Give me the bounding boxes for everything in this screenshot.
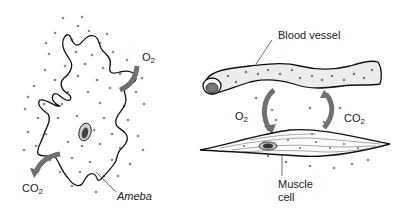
co2-base: CO (344, 112, 361, 124)
blood-vessel-leader-line (256, 40, 272, 64)
muscle-panel (200, 40, 390, 176)
co2-subscript: 2 (361, 117, 365, 126)
o2-base: O (235, 110, 244, 122)
co2-base: CO (22, 182, 39, 194)
muscle-label-line2: cell (278, 191, 295, 203)
ameba-nucleus (77, 122, 93, 142)
ameba-panel (23, 16, 146, 194)
o2-subscript: 2 (244, 115, 248, 124)
o2-subscript: 2 (151, 56, 155, 65)
co2-label-ameba: CO2 (22, 182, 43, 194)
co2-subscript: 2 (39, 187, 43, 196)
blood-vessel (205, 61, 381, 94)
co2-arrow-ameba (36, 154, 60, 172)
o2-label-ameba: O2 (142, 51, 155, 63)
co2-arrowhead-muscle (320, 90, 332, 98)
diagram-canvas (0, 0, 404, 216)
o2-base: O (142, 51, 151, 63)
muscle-cell (200, 130, 390, 157)
blood-vessel-label: Blood vessel (278, 29, 340, 41)
ameba-outline (38, 35, 136, 186)
muscle-label-line1: Muscle (278, 178, 313, 190)
co2-arrow-muscle (324, 94, 332, 128)
o2-label-muscle: O2 (235, 110, 248, 122)
ameba-label: Ameba (117, 190, 152, 202)
ameba-leader-line (96, 172, 116, 192)
muscle-nucleus (259, 142, 277, 150)
o2-arrow-ameba (120, 66, 137, 90)
co2-label-muscle: CO2 (344, 112, 365, 124)
